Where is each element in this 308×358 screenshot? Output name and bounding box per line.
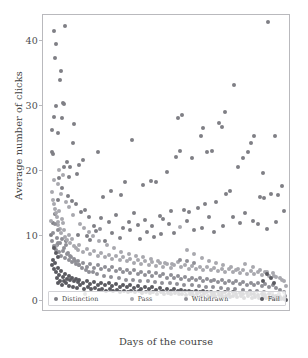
data-point bbox=[72, 122, 76, 126]
data-point bbox=[56, 131, 60, 135]
data-point bbox=[161, 217, 165, 221]
data-point bbox=[56, 228, 60, 232]
data-point bbox=[261, 171, 265, 175]
data-point bbox=[221, 224, 225, 228]
y-axis-label: Average number of clicks bbox=[13, 46, 24, 226]
data-point bbox=[156, 259, 160, 263]
data-point bbox=[220, 125, 224, 129]
data-point bbox=[176, 116, 180, 120]
legend-marker-icon bbox=[130, 297, 134, 301]
legend-item-label: Withdrawn bbox=[192, 295, 229, 303]
data-point bbox=[102, 274, 106, 278]
data-point bbox=[192, 228, 196, 232]
data-point bbox=[199, 134, 203, 138]
data-point bbox=[130, 138, 134, 142]
plot-area: DistinctionPassWithdrawnFail bbox=[42, 14, 290, 311]
data-point bbox=[207, 215, 211, 219]
data-point bbox=[214, 261, 218, 265]
data-point bbox=[178, 225, 182, 229]
data-point bbox=[79, 210, 83, 214]
data-point bbox=[266, 20, 270, 24]
data-point bbox=[53, 222, 57, 226]
data-point bbox=[88, 252, 92, 256]
data-point bbox=[178, 258, 182, 262]
legend-marker-icon bbox=[184, 297, 188, 301]
data-point bbox=[58, 78, 62, 82]
data-point bbox=[107, 220, 111, 224]
data-point bbox=[232, 83, 236, 87]
legend-item-distinction[interactable]: Distinction bbox=[54, 295, 98, 303]
data-point bbox=[55, 236, 59, 240]
data-point bbox=[57, 209, 61, 213]
data-point bbox=[50, 239, 54, 243]
data-point bbox=[205, 150, 209, 154]
data-point bbox=[149, 179, 153, 183]
data-point bbox=[192, 261, 196, 265]
data-point bbox=[158, 214, 162, 218]
data-point bbox=[223, 110, 227, 114]
data-point bbox=[66, 251, 70, 255]
data-point bbox=[85, 234, 89, 238]
data-point bbox=[53, 261, 57, 265]
data-point bbox=[74, 202, 78, 206]
data-point bbox=[88, 238, 92, 242]
data-point bbox=[256, 222, 260, 226]
data-point bbox=[71, 141, 75, 145]
data-point bbox=[81, 158, 85, 162]
data-point bbox=[214, 200, 218, 204]
data-point bbox=[117, 276, 121, 280]
data-point bbox=[62, 102, 66, 106]
data-point bbox=[134, 254, 138, 258]
data-point bbox=[196, 206, 200, 210]
data-point bbox=[55, 215, 59, 219]
data-point bbox=[131, 278, 135, 282]
data-point bbox=[61, 173, 65, 177]
legend-item-fail[interactable]: Fail bbox=[260, 295, 280, 303]
data-point bbox=[66, 194, 70, 198]
data-point bbox=[252, 134, 256, 138]
data-point bbox=[163, 261, 167, 265]
data-point bbox=[92, 224, 96, 228]
data-point bbox=[180, 113, 184, 117]
data-point bbox=[160, 281, 164, 285]
data-point bbox=[201, 126, 205, 130]
data-point bbox=[182, 208, 186, 212]
data-point bbox=[243, 262, 247, 266]
data-point bbox=[258, 268, 262, 272]
data-point bbox=[251, 265, 255, 269]
data-point bbox=[59, 69, 63, 73]
data-point bbox=[219, 286, 223, 290]
data-point bbox=[52, 246, 56, 250]
data-point bbox=[62, 228, 66, 232]
data-point bbox=[52, 178, 56, 182]
data-point bbox=[87, 230, 91, 234]
legend-item-label: Fail bbox=[268, 295, 280, 303]
data-point bbox=[124, 278, 128, 282]
data-point bbox=[262, 196, 266, 200]
x-axis-label: Days of the course bbox=[42, 336, 290, 347]
data-point bbox=[94, 229, 98, 233]
data-point bbox=[203, 202, 207, 206]
data-point bbox=[77, 243, 81, 247]
legend-item-withdrawn[interactable]: Withdrawn bbox=[184, 295, 229, 303]
data-point bbox=[265, 272, 269, 276]
data-point bbox=[95, 272, 99, 276]
data-point bbox=[282, 209, 286, 213]
legend-item-label: Distinction bbox=[62, 295, 98, 303]
data-point bbox=[258, 195, 262, 199]
data-point bbox=[99, 251, 103, 255]
legend-item-pass[interactable]: Pass bbox=[130, 295, 153, 303]
data-point bbox=[243, 211, 247, 215]
data-point bbox=[54, 42, 58, 46]
data-point bbox=[150, 224, 154, 228]
data-point bbox=[192, 252, 196, 256]
data-point bbox=[114, 213, 118, 217]
data-point bbox=[207, 259, 211, 263]
data-point bbox=[52, 202, 56, 206]
data-point bbox=[167, 222, 171, 226]
data-point bbox=[261, 279, 265, 283]
data-point bbox=[110, 231, 114, 235]
data-point bbox=[64, 243, 68, 247]
data-point bbox=[75, 172, 79, 176]
data-point bbox=[165, 170, 169, 174]
